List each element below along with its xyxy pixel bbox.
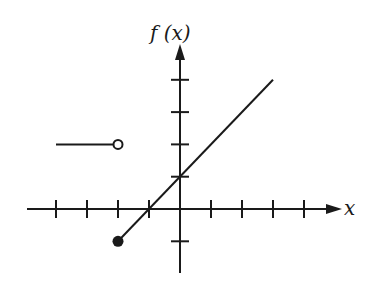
x-axis-label: x: [344, 196, 355, 220]
data-series: [56, 80, 273, 247]
closed-circle-icon: [113, 236, 124, 247]
open-circle-icon: [114, 140, 123, 149]
series-line-piece-2: [118, 80, 273, 242]
y-axis-arrow-icon: [175, 44, 185, 60]
piecewise-function-graph: f (x) x: [0, 0, 365, 289]
x-axis-arrow-icon: [326, 204, 342, 214]
axes: [27, 44, 342, 273]
y-axis-label: f (x): [148, 21, 191, 45]
